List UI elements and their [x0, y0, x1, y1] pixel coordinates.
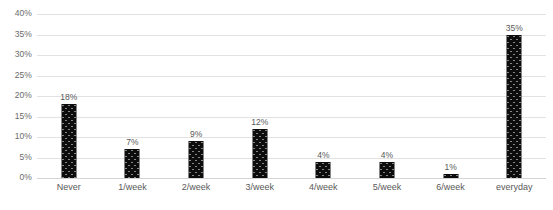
bar-value-label: 1%: [444, 163, 456, 172]
bar[interactable]: [252, 129, 267, 178]
bar-group: 4%: [292, 14, 356, 178]
bar-group: 1%: [419, 14, 483, 178]
y-axis-tick-label: 30%: [0, 50, 32, 59]
x-axis-tick-label: Never: [37, 182, 101, 193]
bar-value-label: 18%: [60, 93, 77, 102]
bar[interactable]: [125, 149, 140, 178]
bar[interactable]: [379, 162, 394, 178]
x-axis-tick-label: 5/week: [355, 182, 419, 193]
bar-value-label: 35%: [506, 24, 523, 33]
bar[interactable]: [61, 104, 76, 178]
bar-value-label: 9%: [190, 130, 202, 139]
y-axis-tick-label: 35%: [0, 30, 32, 39]
x-axis-tick-label: 2/week: [164, 182, 228, 193]
bar-value-label: 7%: [126, 138, 138, 147]
x-axis-tick-label: 1/week: [101, 182, 165, 193]
bar-group: 7%: [101, 14, 165, 178]
y-axis-tick-label: 25%: [0, 71, 32, 80]
bars-layer: 18%7%9%12%4%4%1%35%: [37, 14, 546, 178]
y-axis-tick-labels: 0%5%10%15%20%25%30%35%40%: [0, 0, 32, 210]
bar[interactable]: [189, 141, 204, 178]
bar-value-label: 12%: [251, 118, 268, 127]
gridline-0pct: [37, 178, 546, 179]
bar-chart: 0%5%10%15%20%25%30%35%40% 18%7%9%12%4%4%…: [0, 0, 553, 210]
bar[interactable]: [443, 174, 458, 178]
bar-value-label: 4%: [381, 151, 393, 160]
bar-group: 35%: [482, 14, 546, 178]
y-axis-tick-label: 40%: [0, 9, 32, 18]
x-axis-tick-labels: Never1/week2/week3/week4/week5/week6/wee…: [37, 182, 546, 200]
y-axis-tick-label: 15%: [0, 112, 32, 121]
y-axis-tick-label: 10%: [0, 132, 32, 141]
y-axis-tick-label: 20%: [0, 91, 32, 100]
x-axis-tick-label: 6/week: [419, 182, 483, 193]
bar-group: 18%: [37, 14, 101, 178]
bar-group: 12%: [228, 14, 292, 178]
x-axis-tick-label: 3/week: [228, 182, 292, 193]
x-axis-tick-label: 4/week: [292, 182, 356, 193]
bar[interactable]: [316, 162, 331, 178]
x-axis-tick-label: everyday: [482, 182, 546, 193]
bar-group: 9%: [164, 14, 228, 178]
bar-group: 4%: [355, 14, 419, 178]
y-axis-tick-label: 5%: [0, 153, 32, 162]
bar[interactable]: [507, 35, 522, 179]
bar-value-label: 4%: [317, 151, 329, 160]
y-axis-tick-label: 0%: [0, 173, 32, 182]
